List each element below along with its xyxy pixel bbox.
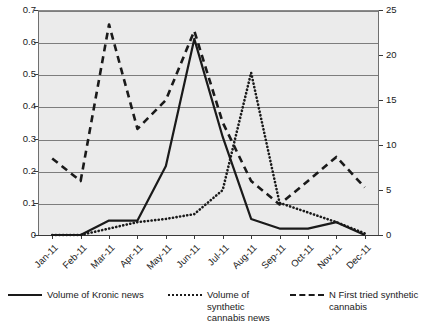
left-axis-tick-label: 0.2 <box>6 165 36 176</box>
right-axis-tick-label: 15 <box>386 94 416 105</box>
right-axis-tick-mark <box>379 235 383 236</box>
right-axis-tick-label: 0 <box>386 229 416 240</box>
legend-item-kronic-news: Volume of Kronic news <box>8 289 144 301</box>
x-axis-tick-mark <box>194 235 195 239</box>
legend-label-first-tried-synthetic-cannabis: N First tried syntheticcannabis <box>329 289 418 312</box>
chart-legend: Volume of Kronic news Volume of syntheti… <box>0 281 421 317</box>
right-axis-tick-mark <box>379 55 383 56</box>
series-line-dashed <box>52 24 365 204</box>
x-axis-tick-mark <box>308 235 309 239</box>
x-axis-tick-mark <box>109 235 110 239</box>
right-axis-tick-label: 20 <box>386 49 416 60</box>
legend-key-solid-icon <box>8 289 42 300</box>
left-axis-tick-label: 0 <box>6 229 36 240</box>
legend-key-dotted-icon <box>168 289 202 300</box>
x-axis-tick-mark <box>336 235 337 239</box>
right-axis-tick-label: 5 <box>386 184 416 195</box>
right-axis-tick-mark <box>379 100 383 101</box>
data-series-layer <box>38 10 379 235</box>
x-axis-tick-mark <box>223 235 224 239</box>
series-line-solid <box>52 39 365 235</box>
x-axis-tick-mark <box>280 235 281 239</box>
right-axis-tick-mark <box>379 145 383 146</box>
series-line-dotted <box>52 73 365 235</box>
x-axis-tick-mark <box>251 235 252 239</box>
left-axis-tick-label: 0.7 <box>6 4 36 15</box>
legend-key-dashed-icon <box>290 289 324 300</box>
right-axis-tick-mark <box>379 190 383 191</box>
left-axis-tick-label: 0.1 <box>6 197 36 208</box>
x-axis-tick-mark <box>365 235 366 239</box>
right-axis-tick-label: 25 <box>386 4 416 15</box>
x-axis-tick-mark <box>166 235 167 239</box>
legend-label-synthetic-cannabis-news: Volume of syntheticcannabis news <box>207 289 288 324</box>
left-axis-tick-label: 0.3 <box>6 133 36 144</box>
left-axis-tick-label: 0.6 <box>6 36 36 47</box>
right-axis-tick-label: 10 <box>386 139 416 150</box>
legend-item-first-tried-synthetic-cannabis: N First tried syntheticcannabis <box>290 289 420 312</box>
legend-item-synthetic-cannabis-news: Volume of syntheticcannabis news <box>168 289 288 324</box>
legend-label-kronic-news: Volume of Kronic news <box>47 289 144 301</box>
x-axis-tick-mark <box>137 235 138 239</box>
x-axis-line <box>38 235 379 236</box>
left-axis-tick-label: 0.4 <box>6 100 36 111</box>
left-axis-tick-label: 0.5 <box>6 68 36 79</box>
right-axis-tick-mark <box>379 10 383 11</box>
